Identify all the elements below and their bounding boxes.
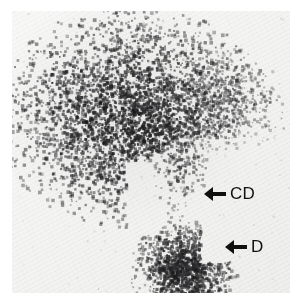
annotation-d-label: D bbox=[251, 238, 264, 255]
autoradiograph-plate: CD D bbox=[12, 11, 290, 293]
figure-root: CD D bbox=[0, 0, 303, 307]
left-arrow-icon bbox=[225, 240, 247, 254]
left-arrow-icon bbox=[204, 187, 226, 201]
annotation-cd-label: CD bbox=[230, 185, 255, 202]
annotation-cd: CD bbox=[204, 185, 255, 202]
annotation-d: D bbox=[225, 238, 264, 255]
